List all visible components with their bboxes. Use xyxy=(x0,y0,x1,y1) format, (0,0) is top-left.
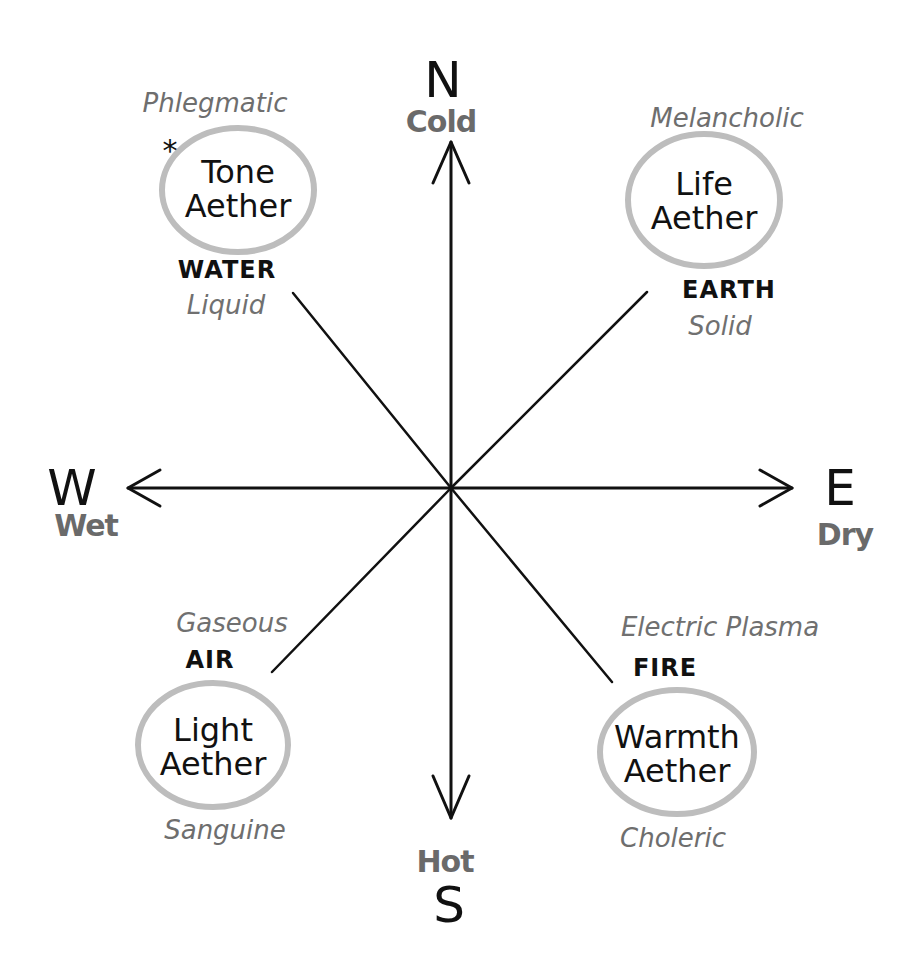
northeast-diagonal xyxy=(451,292,647,488)
air-label: AIR xyxy=(186,648,235,672)
phlegmatic-label: Phlegmatic xyxy=(143,90,288,116)
fire-label: FIRE xyxy=(633,656,697,680)
warmth-aether-line-2: Aether xyxy=(614,755,740,789)
west-label: W xyxy=(47,463,96,513)
life-aether-line-2: Aether xyxy=(651,202,758,236)
light-aether-line-2: Aether xyxy=(160,748,267,782)
southeast-diagonal xyxy=(451,488,612,682)
south-label: S xyxy=(433,880,465,930)
asterisk-marker: * xyxy=(163,133,178,168)
gaseous-label: Gaseous xyxy=(176,610,288,636)
diagram-lines xyxy=(0,0,915,955)
hot-label: Hot xyxy=(416,847,473,877)
east-label: E xyxy=(824,463,856,513)
cold-label: Cold xyxy=(406,107,476,137)
dry-label: Dry xyxy=(817,520,873,550)
wet-label: Wet xyxy=(54,511,118,541)
tone-aether-line-2: Aether xyxy=(185,190,292,224)
life-aether: Life Aether xyxy=(651,168,758,235)
electric-plasma-label: Electric Plasma xyxy=(621,614,819,640)
liquid-label: Liquid xyxy=(187,292,265,318)
solid-label: Solid xyxy=(688,313,751,339)
tone-aether-line-1: Tone xyxy=(185,156,292,190)
northwest-diagonal xyxy=(293,293,451,488)
life-aether-line-1: Life xyxy=(651,168,758,202)
warmth-aether-line-1: Warmth xyxy=(614,721,740,755)
melancholic-label: Melancholic xyxy=(650,105,804,131)
choleric-label: Choleric xyxy=(620,825,726,851)
light-aether: Light Aether xyxy=(160,714,267,781)
sanguine-label: Sanguine xyxy=(164,817,286,843)
north-label: N xyxy=(424,55,461,105)
southwest-diagonal xyxy=(272,488,451,672)
water-label: WATER xyxy=(178,258,276,282)
warmth-aether: Warmth Aether xyxy=(614,721,740,788)
tone-aether: Tone Aether xyxy=(185,156,292,223)
light-aether-line-1: Light xyxy=(160,714,267,748)
compass-diagram: N Cold Hot S W Wet E Dry Phlegmatic * To… xyxy=(0,0,915,955)
earth-label: EARTH xyxy=(682,278,776,302)
